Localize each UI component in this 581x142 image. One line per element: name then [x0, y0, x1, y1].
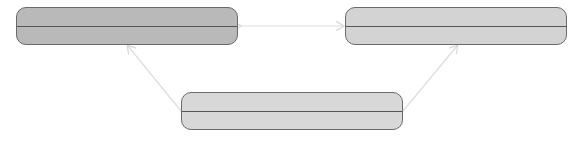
node-divider: [182, 111, 402, 112]
edge-bottom-to-left: [128, 46, 181, 111]
node-divider: [17, 26, 237, 27]
node-bottom[interactable]: [181, 92, 403, 130]
node-divider: [346, 26, 566, 27]
node-left[interactable]: [16, 7, 238, 45]
node-right[interactable]: [345, 7, 567, 45]
edge-bottom-to-right: [403, 46, 457, 111]
